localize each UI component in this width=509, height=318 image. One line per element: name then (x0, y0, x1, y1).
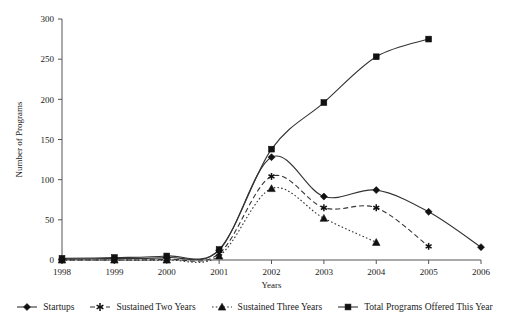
square-marker (111, 255, 117, 261)
y-tick-label: 250 (41, 54, 55, 64)
diamond-marker (268, 154, 275, 161)
square-marker (164, 253, 170, 259)
data-point-total-programs-offered-this-year-2005 (426, 36, 432, 42)
legend-marker (345, 304, 351, 310)
legend-item-sustained-two-years[interactable]: Sustained Two Years (89, 301, 195, 313)
data-point-total-programs-offered-this-year-1999 (111, 255, 117, 261)
y-tick-label: 100 (41, 175, 55, 185)
square-icon (337, 301, 359, 313)
data-point-sustained-two-years-2002 (269, 173, 275, 180)
square-marker (269, 146, 275, 152)
legend-label: Total Programs Offered This Year (364, 302, 493, 312)
data-point-total-programs-offered-this-year-1998 (59, 255, 65, 261)
data-point-startups-2005 (425, 208, 432, 215)
diamond-marker (373, 187, 380, 194)
diamond-marker (477, 244, 484, 251)
y-axis-title: Number of Programs (14, 101, 24, 177)
y-tick-label: 50 (45, 215, 55, 225)
triangle-marker (372, 239, 380, 246)
legend-marker (24, 303, 31, 310)
chart-legend: StartupsSustained Two YearsSustained Thr… (0, 296, 509, 318)
x-tick-label: 2002 (263, 267, 281, 277)
y-tick-label: 0 (50, 255, 55, 265)
series-line-sustained-two-years (62, 175, 429, 261)
square-marker (59, 255, 65, 261)
data-point-startups-2004 (373, 187, 380, 194)
data-point-total-programs-offered-this-year-2001 (216, 247, 222, 253)
legend-label: Sustained Two Years (116, 302, 195, 312)
data-point-startups-2003 (320, 193, 327, 200)
square-marker (426, 36, 432, 42)
data-point-sustained-two-years-2005 (426, 243, 432, 250)
y-tick-label: 150 (41, 135, 55, 145)
data-point-sustained-three-years-2004 (372, 239, 380, 246)
x-tick-label: 2005 (420, 267, 439, 277)
legend-label: Startups (43, 302, 74, 312)
square-marker (373, 54, 379, 60)
x-tick-label: 2000 (158, 267, 177, 277)
x-tick-label: 1998 (53, 267, 72, 277)
x-axis-title: Years (261, 280, 282, 290)
data-point-total-programs-offered-this-year-2004 (373, 54, 379, 60)
y-tick-label: 300 (41, 14, 55, 24)
x-tick-label: 2004 (367, 267, 386, 277)
data-point-total-programs-offered-this-year-2000 (164, 253, 170, 259)
diamond-marker (425, 208, 432, 215)
triangle-marker (320, 214, 328, 221)
series-line-total-programs-offered-this-year (62, 39, 429, 259)
legend-label: Sustained Three Years (238, 302, 323, 312)
triangle-icon (211, 301, 233, 313)
data-point-sustained-two-years-2004 (373, 204, 379, 211)
diamond-icon (16, 301, 38, 313)
square-marker (321, 100, 327, 106)
data-point-total-programs-offered-this-year-2003 (321, 100, 327, 106)
x-tick-label: 2003 (315, 267, 334, 277)
diamond-marker (320, 193, 327, 200)
asterisk-icon (89, 301, 111, 313)
data-point-startups-2006 (477, 244, 484, 251)
legend-item-total-programs-offered-this-year[interactable]: Total Programs Offered This Year (337, 301, 493, 313)
chart-container: 0501001502002503001998199920002001200220… (0, 0, 509, 318)
square-marker (216, 247, 222, 253)
x-tick-label: 2001 (210, 267, 228, 277)
data-point-sustained-two-years-2003 (321, 204, 327, 211)
x-tick-label: 1999 (105, 267, 124, 277)
data-point-sustained-three-years-2003 (320, 214, 328, 221)
y-tick-label: 200 (41, 95, 55, 105)
legend-item-startups[interactable]: Startups (16, 301, 74, 313)
square-marker (345, 304, 351, 310)
diamond-marker (24, 303, 31, 310)
x-tick-label: 2006 (472, 267, 491, 277)
series-line-startups (62, 156, 481, 260)
data-point-total-programs-offered-this-year-2002 (269, 146, 275, 152)
legend-item-sustained-three-years[interactable]: Sustained Three Years (211, 301, 323, 313)
data-point-startups-2002 (268, 154, 275, 161)
line-chart: 0501001502002503001998199920002001200220… (0, 0, 509, 296)
